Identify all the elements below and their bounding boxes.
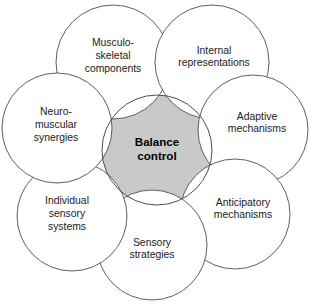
node-label-anticipatory-mechanisms: Anticipatorymechanisms — [214, 196, 272, 220]
node-label-individual-sensory-systems: Individualsensorysystems — [45, 195, 89, 231]
node-label-sensory-strategies: Sensorystrategies — [129, 236, 174, 260]
node-label-neuromuscular-synergies: Neuro-muscularsynergies — [34, 106, 78, 142]
center-label-balance-control: Balancecontrol — [135, 135, 180, 161]
balance-control-diagram: Musculo-skeletalcomponentsInternalrepres… — [0, 0, 314, 307]
venn-cluster-svg: Musculo-skeletalcomponentsInternalrepres… — [0, 0, 314, 307]
